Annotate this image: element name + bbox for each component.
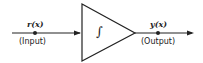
integral-symbol: ∫: [96, 25, 103, 38]
output-arrow-icon: [187, 31, 194, 36]
output-symbol: y(x): [150, 20, 167, 28]
input-caption: (Input): [19, 38, 46, 46]
integrator-block: [82, 4, 135, 61]
input-point-icon: [33, 31, 37, 35]
input-symbol: r(x): [27, 20, 44, 28]
input-arrow-icon: [74, 31, 81, 36]
output-point-icon: [156, 31, 160, 35]
integrator-diagram: r(x) (Input) ∫ y(x) (Output): [0, 0, 203, 63]
output-signal-line: [135, 31, 194, 36]
output-caption: (Output): [141, 38, 175, 46]
input-signal-line: [12, 31, 81, 36]
